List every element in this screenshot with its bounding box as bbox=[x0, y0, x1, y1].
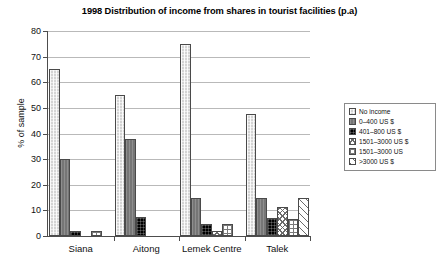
x-tick-mark bbox=[179, 236, 180, 241]
bar bbox=[277, 207, 288, 236]
bar bbox=[60, 159, 71, 236]
x-axis-label: Aitong bbox=[133, 243, 160, 254]
y-tick-label: 20 bbox=[3, 180, 41, 190]
x-tick-mark bbox=[310, 236, 311, 241]
y-tick-mark bbox=[43, 236, 48, 237]
legend-swatch bbox=[349, 108, 356, 115]
legend-item[interactable]: 1501–3000 US bbox=[349, 147, 432, 157]
legend-item[interactable]: No income bbox=[349, 107, 432, 117]
legend-swatch bbox=[349, 118, 356, 125]
legend-swatch bbox=[349, 158, 356, 165]
legend-item[interactable]: 0–400 US $ bbox=[349, 117, 432, 127]
bar bbox=[222, 224, 233, 236]
chart-legend: No income0–400 US $401–800 US $1501–3000… bbox=[344, 103, 436, 171]
bar bbox=[201, 224, 212, 236]
legend-label: >3000 US $ bbox=[359, 157, 394, 166]
bar bbox=[246, 114, 257, 236]
plot-area bbox=[48, 31, 310, 236]
x-axis-label: Siana bbox=[69, 243, 93, 254]
y-tick-label: 10 bbox=[3, 205, 41, 215]
bar-chart: 1998 Distribution of income from shares … bbox=[0, 0, 439, 275]
legend-label: 1501–3000 US $ bbox=[359, 137, 409, 146]
bar bbox=[136, 217, 147, 236]
bar bbox=[180, 44, 191, 236]
bar-group bbox=[246, 31, 309, 236]
bar bbox=[267, 218, 278, 236]
x-tick-mark bbox=[114, 236, 115, 241]
legend-label: 1501–3000 US bbox=[359, 147, 403, 156]
legend-swatch bbox=[349, 138, 356, 145]
bar bbox=[70, 231, 81, 236]
x-axis-label: Talek bbox=[266, 243, 288, 254]
bar bbox=[191, 198, 202, 236]
y-tick-label: 0 bbox=[3, 231, 41, 241]
bar-group bbox=[115, 31, 178, 236]
legend-swatch bbox=[349, 148, 356, 155]
bar bbox=[115, 95, 126, 236]
bar bbox=[49, 69, 60, 236]
legend-label: 401–800 US $ bbox=[359, 127, 401, 136]
bar bbox=[212, 231, 223, 236]
legend-item[interactable]: >3000 US $ bbox=[349, 157, 432, 167]
bar bbox=[288, 219, 299, 236]
bar bbox=[298, 198, 309, 236]
y-tick-label: 80 bbox=[3, 26, 41, 36]
x-tick-mark bbox=[245, 236, 246, 241]
bar bbox=[91, 231, 102, 236]
chart-title: 1998 Distribution of income from shares … bbox=[0, 6, 439, 16]
bar bbox=[125, 139, 136, 236]
legend-item[interactable]: 1501–3000 US $ bbox=[349, 137, 432, 147]
bar-group bbox=[180, 31, 243, 236]
legend-label: No income bbox=[359, 107, 391, 116]
y-axis-title: % of sample bbox=[16, 88, 26, 158]
bar bbox=[256, 198, 267, 236]
legend-label: 0–400 US $ bbox=[359, 117, 394, 126]
y-tick-label: 60 bbox=[3, 77, 41, 87]
legend-item[interactable]: 401–800 US $ bbox=[349, 127, 432, 137]
y-tick-label: 70 bbox=[3, 52, 41, 62]
bar-group bbox=[49, 31, 112, 236]
x-axis-label: Lemek Centre bbox=[182, 243, 242, 254]
legend-swatch bbox=[349, 128, 356, 135]
